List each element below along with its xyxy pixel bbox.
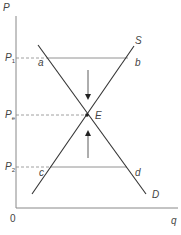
demand-curve (38, 45, 146, 194)
equilibrium-label: E (95, 110, 102, 121)
origin-label: 0 (10, 213, 16, 224)
supply-curve (32, 46, 134, 194)
equilibrium-point (85, 113, 89, 117)
point-d-label: d (135, 167, 141, 178)
y-axis-label: P (3, 2, 10, 13)
down-arrow-icon (85, 94, 91, 100)
point-b-label: b (135, 57, 141, 68)
p2-label: P2 (5, 161, 16, 173)
supply-label: S (135, 35, 142, 46)
x-axis-label: q (171, 215, 177, 226)
point-c-label: c (39, 167, 44, 178)
pe-label: Pe (5, 109, 16, 121)
supply-demand-diagram: P 0 q P1 Pe P2 D S a b c d E (0, 0, 181, 235)
p1-label: P1 (5, 52, 16, 64)
point-a-label: a (38, 57, 44, 68)
up-arrow-icon (85, 130, 91, 136)
demand-label: D (152, 189, 159, 200)
